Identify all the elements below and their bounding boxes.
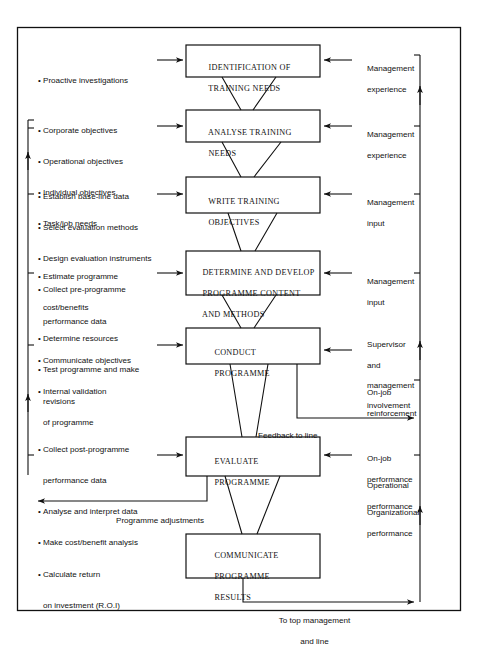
bullet-icon: • xyxy=(38,355,43,365)
right-note-on-job-reinforcement: On-job reinforcement xyxy=(358,378,416,429)
bullet-icon: • xyxy=(38,191,43,201)
box-label-determine: DETERMINE AND DEVELOP PROGRAMME CONTENT … xyxy=(193,257,315,331)
bullet-icon: • xyxy=(38,444,43,454)
bullet-icon: • xyxy=(38,157,43,167)
bullet-icon: • xyxy=(38,507,43,517)
edge-label-programme-adjustments: Programme adjustments xyxy=(107,506,204,537)
box-label-write: WRITE TRAINING OBJECTIVES xyxy=(199,186,280,239)
left-input-proactive: •Proactive investigations xyxy=(38,55,128,107)
edge-label-feedback-to-line: Feedback to line xyxy=(249,421,317,452)
right-note-management-input-1: Management input xyxy=(358,188,414,239)
box-label-communicate: COMMUNICATE PROGRAMME RESULTS xyxy=(205,540,279,614)
bullet-icon: • xyxy=(38,75,43,85)
right-note-management-experience-1: Management experience xyxy=(358,54,414,105)
right-note-organizational-performance: Organizational performance xyxy=(358,498,419,549)
bullet-icon: • xyxy=(38,387,43,397)
box-label-conduct: CONDUCT PROGRAMME xyxy=(205,337,270,390)
bullet-icon: • xyxy=(38,569,43,579)
edge-label-to-top-management: To top management and line xyxy=(255,606,365,651)
training-cycle-diagram: IDENTIFICATION OF TRAINING NEEDS ANALYSE… xyxy=(0,0,478,651)
bullet-icon: • xyxy=(38,538,43,548)
bullet-icon: • xyxy=(38,271,43,281)
right-note-management-input-2: Management input xyxy=(358,267,414,318)
box-label-identification: IDENTIFICATION OF TRAINING NEEDS xyxy=(199,52,291,105)
bullet-icon: • xyxy=(38,223,43,233)
box-label-analyse: ANALYSE TRAINING NEEDS xyxy=(199,117,292,170)
bullet-icon: • xyxy=(38,125,43,135)
box-label-evaluate: EVALUATE PROGRAMME xyxy=(205,446,270,499)
right-note-management-experience-2: Management experience xyxy=(358,120,414,171)
